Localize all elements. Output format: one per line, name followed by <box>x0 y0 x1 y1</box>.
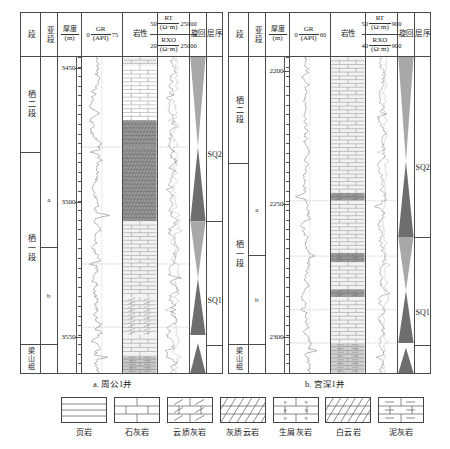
caption-panel-b: b. 宫深1井 <box>305 377 345 389</box>
lithology-track-a: 9999999999999999999999999999 <box>123 57 157 373</box>
depth-track-b: 220022502300 <box>266 57 290 373</box>
sequence-cells-a: SQ2 SQ1 <box>207 57 222 373</box>
column-sequence-b: 层序 SQ2 SQ1 <box>415 13 430 373</box>
legend-item: 999999生屑灰岩 <box>269 397 322 445</box>
cycle-column-a <box>190 57 206 373</box>
header-rxo-den-a: (Ω·m) <box>158 46 180 54</box>
depth-tick <box>78 239 81 240</box>
depth-tick <box>78 296 81 297</box>
depth-tick <box>286 258 289 259</box>
legend-label: 泥灰岩 <box>389 426 414 437</box>
gr-curve-a <box>82 57 122 373</box>
column-lithology-b: 岩性 <box>331 13 366 373</box>
header-gr-min-b: 0 <box>294 31 297 38</box>
header-sequence-label-a: 层序 <box>207 30 221 38</box>
caption-panel-a: a. 周公1井 <box>93 377 132 389</box>
strat-label-qi1-a: 栖一段 <box>26 234 34 263</box>
depth-tick <box>286 316 289 317</box>
header-subduan-a: 亚段 <box>41 13 57 57</box>
depth-tick <box>286 363 289 364</box>
well-log-correlation-figure: 段 栖二段 栖一段 梁山组 亚段 <box>0 0 450 449</box>
column-cycle-b: 旋回 <box>398 13 415 373</box>
legend-label: 云质灰岩 <box>173 426 206 437</box>
header-duan-label-a: 段 <box>26 30 34 39</box>
depth-tick <box>78 124 81 125</box>
strat-label-qi2-b: 栖二段 <box>234 96 242 125</box>
resistivity-track-a <box>158 57 190 373</box>
depth-tick <box>286 229 289 230</box>
sq2-text-b: SQ2 <box>415 163 429 172</box>
depth-major-tick <box>283 71 289 72</box>
depth-tick <box>286 124 289 125</box>
header-cycle-b: 旋回 <box>398 13 414 57</box>
column-cycle-a: 旋回 <box>190 13 207 373</box>
legend-swatch-dolomitic-limestone <box>167 397 213 423</box>
strat-label-qi2-a: 栖二段 <box>26 90 34 119</box>
column-thickness-b: 厚度 (m) 220022502300 <box>266 13 291 373</box>
depth-tick <box>78 277 81 278</box>
sq1-text-b: SQ1 <box>415 308 429 317</box>
legend-swatch-calcareous-dolomite <box>220 397 266 423</box>
depth-tick <box>78 287 81 288</box>
header-rt-min-a: 50 <box>150 20 157 27</box>
legend-label: 页岩 <box>76 426 93 437</box>
header-gr-max-a: 75 <box>112 31 119 38</box>
depth-tick <box>78 306 81 307</box>
strat-cell-qi1-a: 栖一段 <box>21 153 40 344</box>
depth-tick <box>286 220 289 221</box>
sequence-label-sq2-b: SQ2 <box>415 133 430 203</box>
strat-cell-qi2-a: 栖二段 <box>21 57 40 153</box>
header-rt-min-b: 50 <box>362 20 369 27</box>
depth-tick <box>78 86 81 87</box>
depth-tick <box>286 335 289 336</box>
column-resistivity-b: 50 RT (Ω·m) 900 40 <box>366 13 399 373</box>
header-gr-den-b: (API) <box>299 35 319 43</box>
legend-label: 生屑灰岩 <box>279 426 312 437</box>
header-duan-label-b: 段 <box>234 30 242 39</box>
depth-tick <box>78 134 81 135</box>
depth-tick <box>78 354 81 355</box>
legend-label: 石灰岩 <box>125 426 150 437</box>
depth-tick <box>286 153 289 154</box>
depth-tick <box>286 296 289 297</box>
depth-tick <box>286 86 289 87</box>
sequence-label-sq1-a: SQ1 <box>207 266 222 336</box>
sq1-text-a: SQ1 <box>207 296 221 305</box>
column-duan-b: 段 栖二段 栖一段 梁山组 <box>229 13 249 373</box>
depth-tick <box>286 162 289 163</box>
header-subduan-label-b: 亚段 <box>253 26 261 44</box>
depth-tick <box>286 143 289 144</box>
depth-label: 3550 <box>61 333 75 341</box>
depth-tick <box>286 201 289 202</box>
depth-tick <box>286 354 289 355</box>
column-resistivity-a: 50 RT (Ω·m) 25000 20 <box>158 13 191 373</box>
subcell-label-a-b: a <box>255 206 258 214</box>
header-thickness-den-b: (m) <box>269 35 287 43</box>
column-gr-a: 0 GR (API) 75 <box>82 13 123 373</box>
depth-label: 2300 <box>269 333 283 341</box>
legend-item: 灰质云岩 <box>216 397 269 445</box>
sequence-label-sq2-a: SQ2 <box>207 120 222 190</box>
depth-tick <box>286 114 289 115</box>
resistivity-curves-a <box>158 57 190 373</box>
depth-tick <box>78 153 81 154</box>
depth-major-tick <box>283 337 289 338</box>
cycle-track-a <box>190 57 206 373</box>
lithology-track-b <box>331 57 365 373</box>
subcell-b-a: b <box>41 248 57 344</box>
column-gr-b: 0 GR (API) 60 <box>290 13 331 373</box>
depth-major-tick <box>75 202 81 203</box>
sequence-label-sq1-b: SQ1 <box>415 278 430 348</box>
well-panel-b: 段 栖二段 栖一段 梁山组 亚段 <box>228 12 431 374</box>
lithology-legend: 页岩石灰岩云质灰岩灰质云岩999999生屑灰岩白云岩泥灰岩 <box>58 397 428 445</box>
resistivity-curves-b <box>366 57 398 373</box>
column-subduan-a: 亚段 a b <box>41 13 58 373</box>
header-rxo-b: 40 RXO (Ω·m) 900 <box>362 35 402 56</box>
depth-major-tick <box>75 337 81 338</box>
column-duan-a: 段 栖二段 栖一段 梁山组 <box>21 13 41 373</box>
duan-cells-a: 栖二段 栖一段 梁山组 <box>21 57 40 373</box>
depth-tick <box>78 95 81 96</box>
header-rxo-min-a: 20 <box>150 42 157 49</box>
depth-tick <box>78 325 81 326</box>
depth-tick <box>78 143 81 144</box>
